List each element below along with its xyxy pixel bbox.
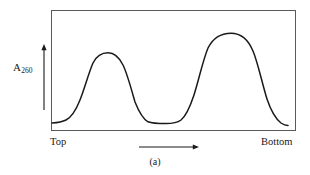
x-axis-label-top: Top bbox=[50, 137, 66, 148]
y-axis-label: A260 bbox=[13, 62, 32, 73]
x-axis-label-bottom: Bottom bbox=[261, 137, 293, 148]
y-axis-symbol: A bbox=[13, 61, 21, 73]
plot-frame bbox=[51, 10, 296, 131]
figure-root: A260 Top Bottom (a) bbox=[0, 0, 310, 175]
right-arrow-icon bbox=[139, 144, 199, 149]
figure-caption: (a) bbox=[0, 157, 310, 167]
y-axis-subscript: 260 bbox=[21, 66, 32, 75]
up-arrow-icon bbox=[41, 44, 46, 110]
